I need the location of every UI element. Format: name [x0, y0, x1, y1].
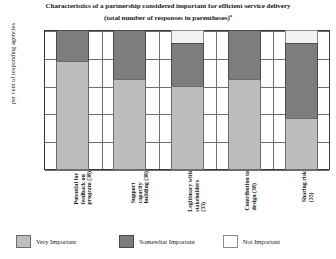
x-axis-label-sharing-risk: Sharing risk (35) — [301, 171, 314, 202]
x-label-line: Contribution to — [244, 171, 251, 210]
bar-slot-1 — [101, 30, 158, 170]
x-label-line: Potential for — [73, 171, 80, 204]
legend-swatch-icon — [223, 235, 238, 248]
chart-title-footnote-marker: a — [230, 13, 232, 18]
bar-segment-very-important — [171, 86, 204, 170]
bar-segment-somewhat-important — [228, 30, 261, 79]
legend-label: Not Important — [243, 238, 281, 245]
chart-container: Characteristics of a partnership conside… — [0, 0, 336, 259]
chart-title-line-2-text: (total number of responses in parenthese… — [104, 15, 230, 23]
x-axis-label-contribution-to-design: Contribution to design (38) — [244, 171, 257, 210]
legend-item-very-important[interactable]: Very Important — [16, 235, 119, 248]
bar-segment-very-important — [285, 118, 318, 170]
x-axis-label-legitimacy-with-stakeholders: Legitimacy with stakeholders (35) — [187, 171, 207, 212]
chart-title: Characteristics of a partnership conside… — [0, 2, 336, 24]
stacked-bar-sharing-risk[interactable] — [285, 30, 318, 170]
bar-segment-very-important — [113, 79, 146, 170]
bar-segment-somewhat-important — [285, 43, 318, 119]
x-label-slot-1: Support capacity building (38) — [101, 171, 158, 225]
x-label-line: Legitimacy with — [187, 171, 194, 212]
stacked-bar-potential-for-feedback-on-program[interactable] — [56, 30, 89, 170]
bar-segment-somewhat-important — [171, 43, 204, 86]
x-label-slot-3: Contribution to design (38) — [216, 171, 273, 225]
legend-label: Very Important — [36, 238, 76, 245]
x-axis-label-potential-for-feedback-on-program: Potential for feedback on program (38) — [73, 171, 93, 204]
x-label-slot-2: Legitimacy with stakeholders (35) — [158, 171, 215, 225]
chart-legend: Very Important Somewhat Important Not Im… — [16, 230, 326, 252]
x-label-line: Support — [130, 171, 137, 203]
x-label-line: (35) — [200, 171, 207, 212]
bars-layer — [44, 30, 330, 170]
legend-label: Somewhat Important — [139, 238, 195, 245]
chart-title-line-2: (total number of responses in parenthese… — [0, 11, 336, 24]
bar-segment-very-important — [56, 61, 89, 170]
x-label-line: feedback on — [79, 171, 86, 204]
x-axis-labels: Potential for feedback on program (38) S… — [44, 171, 330, 225]
x-label-slot-0: Potential for feedback on program (38) — [44, 171, 101, 225]
y-axis-label: per cent of responding agencies — [9, 4, 16, 124]
x-label-slot-4: Sharing risk (35) — [273, 171, 330, 225]
legend-item-not-important[interactable]: Not Important — [223, 235, 326, 248]
x-label-line: building (38) — [143, 171, 150, 203]
bar-segment-somewhat-important — [56, 30, 89, 61]
bar-slot-0 — [44, 30, 101, 170]
bar-slot-2 — [158, 30, 215, 170]
x-label-line: program (38) — [86, 171, 93, 204]
stacked-bar-support-capacity-building[interactable] — [113, 30, 146, 170]
bar-segment-very-important — [228, 79, 261, 170]
bar-segment-somewhat-important — [113, 30, 146, 79]
legend-swatch-icon — [16, 235, 31, 248]
stacked-bar-contribution-to-design[interactable] — [228, 30, 261, 170]
chart-title-line-1: Characteristics of a partnership conside… — [0, 2, 336, 11]
legend-item-somewhat-important[interactable]: Somewhat Important — [119, 235, 222, 248]
x-label-line: capacity — [136, 171, 143, 203]
x-axis-label-support-capacity-building: Support capacity building (38) — [130, 171, 150, 203]
x-label-line: (35) — [308, 171, 315, 202]
x-label-line: design (38) — [251, 171, 258, 210]
stacked-bar-legitimacy-with-stakeholders[interactable] — [171, 30, 204, 170]
bar-segment-not-important — [285, 30, 318, 43]
bar-slot-4 — [273, 30, 330, 170]
legend-swatch-icon — [119, 235, 134, 248]
bar-segment-not-important — [171, 30, 204, 43]
x-label-line: stakeholders — [194, 171, 201, 212]
bar-slot-3 — [216, 30, 273, 170]
